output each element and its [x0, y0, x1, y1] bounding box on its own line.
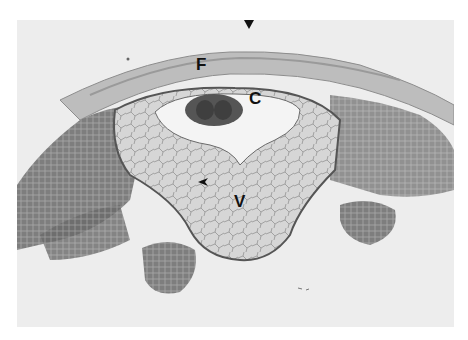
arrowhead-icon — [198, 178, 208, 186]
label-F: F — [196, 56, 206, 73]
label-C: C — [249, 90, 261, 107]
tissue-section-image — [17, 20, 454, 327]
label-V: V — [234, 193, 245, 210]
arrow-down-icon — [243, 20, 255, 30]
micrograph-panel: F C V — [17, 20, 454, 327]
